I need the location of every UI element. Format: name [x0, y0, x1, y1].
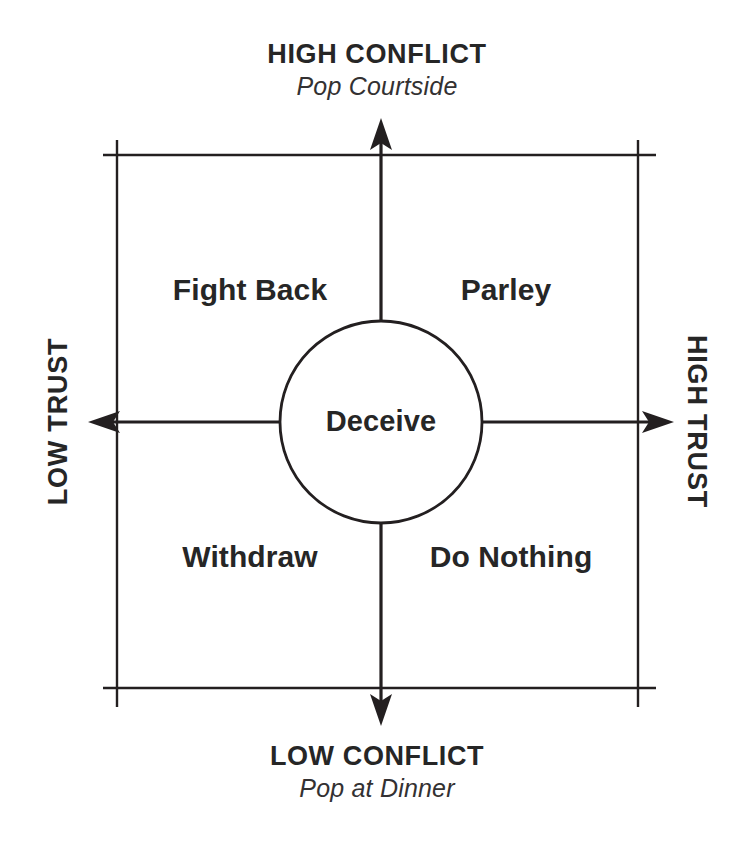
axis-sublabel-low-conflict: Pop at Dinner [0, 775, 754, 802]
quadrant-label-fight-back: Fight Back [150, 273, 350, 307]
axis-label-low-trust: LOW TRUST [43, 272, 74, 572]
axis-sublabel-high-conflict: Pop Courtside [0, 73, 754, 100]
quadrant-label-parley: Parley [406, 273, 606, 307]
axis-label-high-conflict: HIGH CONFLICT [0, 40, 754, 69]
quadrant-label-withdraw: Withdraw [150, 540, 350, 574]
axis-label-high-trust: HIGH TRUST [681, 272, 712, 572]
quadrant-label-do-nothing: Do Nothing [411, 540, 611, 574]
axis-label-low-conflict: LOW CONFLICT [0, 742, 754, 771]
quadrant-diagram: HIGH CONFLICT Pop Courtside LOW CONFLICT… [0, 0, 754, 850]
center-label-deceive: Deceive [281, 405, 481, 438]
